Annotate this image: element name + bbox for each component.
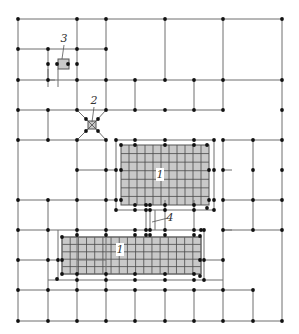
node-dot: [104, 168, 108, 172]
svg-text:3: 3: [61, 32, 68, 45]
zone-1-lower: [62, 237, 201, 274]
node-dot: [221, 288, 225, 292]
node-dot: [16, 228, 20, 232]
label-2: 2: [90, 94, 98, 107]
node-dot: [104, 108, 108, 112]
node-dot: [104, 272, 108, 276]
node-dot: [104, 17, 108, 21]
node-dot: [163, 319, 167, 323]
node-dot: [251, 228, 255, 232]
svg-text:1: 1: [157, 168, 164, 181]
node-dot: [198, 258, 202, 262]
node-dot: [148, 228, 152, 232]
node-dot: [104, 47, 108, 51]
node-dot: [55, 277, 59, 281]
node-dot: [75, 288, 79, 292]
node-dot: [133, 228, 137, 232]
node-dot: [75, 319, 79, 323]
node-dot: [280, 78, 284, 82]
node-dot: [251, 168, 255, 172]
node-dot: [202, 278, 206, 282]
node-dot: [221, 138, 225, 142]
node-dot: [212, 138, 216, 142]
node-dot: [221, 258, 225, 262]
node-dot: [75, 108, 79, 112]
node-dot: [75, 138, 79, 142]
node-dot: [144, 228, 148, 232]
node-dot: [221, 319, 225, 323]
refined-zones: [58, 59, 209, 274]
node-dot: [16, 78, 20, 82]
svg-text:2: 2: [90, 94, 98, 107]
node-dot: [55, 62, 59, 66]
node-dot: [104, 228, 108, 232]
node-dot: [104, 233, 108, 237]
node-dot: [280, 17, 284, 21]
node-dot: [104, 198, 108, 202]
node-dot: [46, 288, 50, 292]
node-dot: [104, 138, 108, 142]
mesh-diagram: 11234: [0, 0, 299, 334]
node-dot: [133, 233, 137, 237]
node-dot: [46, 47, 50, 51]
node-dot: [280, 168, 284, 172]
leader-2: [92, 107, 94, 122]
node-dot: [163, 78, 167, 82]
node-dot: [148, 203, 152, 207]
node-dot: [75, 168, 79, 172]
node-dot: [75, 272, 79, 276]
node-dot: [75, 228, 79, 232]
node-dot: [280, 319, 284, 323]
label-1-upper: 1: [156, 168, 164, 181]
node-dot: [104, 288, 108, 292]
node-dot: [96, 117, 100, 121]
node-dot: [46, 258, 50, 262]
node-dot: [56, 258, 60, 262]
node-dot: [192, 143, 196, 147]
node-dot: [119, 198, 123, 202]
node-dot: [163, 288, 167, 292]
node-dot: [46, 78, 50, 82]
node-dot: [16, 319, 20, 323]
node-dot: [192, 108, 196, 112]
node-dot: [163, 233, 167, 237]
node-dot: [192, 78, 196, 82]
node-dot: [104, 319, 108, 323]
node-dot: [251, 288, 255, 292]
node-dot: [163, 203, 167, 207]
node-dot: [192, 228, 196, 232]
node-dot: [133, 203, 137, 207]
node-dot: [212, 208, 216, 212]
node-dot: [212, 168, 216, 172]
zone-2: [88, 121, 96, 129]
node-dot: [163, 143, 167, 147]
node-dot: [133, 78, 137, 82]
node-dot: [133, 108, 137, 112]
node-dot: [75, 233, 79, 237]
node-dot: [207, 198, 211, 202]
node-dot: [75, 62, 79, 66]
node-dot: [144, 208, 148, 212]
node-dot: [280, 108, 284, 112]
node-dot: [192, 319, 196, 323]
node-dot: [163, 278, 167, 282]
node-dot: [16, 138, 20, 142]
node-dot: [46, 228, 50, 232]
node-dot: [119, 143, 123, 147]
node-dot: [16, 17, 20, 21]
node-dot: [104, 278, 108, 282]
node-dot: [60, 272, 64, 276]
node-dot: [212, 198, 216, 202]
node-dot: [163, 272, 167, 276]
node-dot: [205, 143, 209, 147]
node-dot: [46, 198, 50, 202]
node-dot: [192, 278, 196, 282]
node-dot: [60, 258, 64, 262]
node-dot: [221, 108, 225, 112]
node-dot: [46, 62, 50, 66]
node-dot: [75, 78, 79, 82]
node-dot: [163, 108, 167, 112]
node-dot: [205, 206, 209, 210]
node-dot: [114, 168, 118, 172]
node-dot: [280, 198, 284, 202]
